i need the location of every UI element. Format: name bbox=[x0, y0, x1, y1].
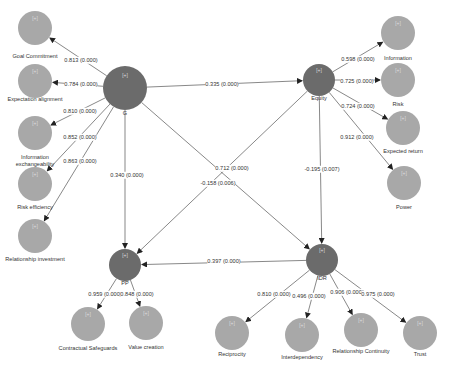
paths-arrow-g-idr bbox=[142, 102, 310, 248]
expand-toggle-icon[interactable]: [+] bbox=[401, 170, 407, 176]
loadings-coefficient-label: 0.810 (0.000) bbox=[63, 108, 96, 115]
construct-label-pp: PP bbox=[95, 280, 155, 287]
loadings-coefficient-label: 0.784 (0.000) bbox=[64, 81, 97, 88]
indicator-label-valuecr: Value creation bbox=[116, 344, 176, 351]
indicator-label-riskeff: Risk efficiency bbox=[5, 204, 65, 211]
expand-toggle-icon[interactable]: [+] bbox=[32, 15, 38, 21]
expand-toggle-icon[interactable]: [+] bbox=[32, 223, 38, 229]
paths-coefficient-label: -0.158 (0.006) bbox=[200, 180, 235, 187]
construct-label-g: G bbox=[95, 110, 155, 117]
indicator-label-information: Information bbox=[368, 55, 428, 62]
paths-coefficient-label: 0.397 (0.000) bbox=[207, 258, 240, 265]
expand-toggle-icon[interactable]: [+] bbox=[85, 311, 91, 317]
expand-toggle-icon[interactable]: [+] bbox=[417, 320, 423, 326]
expand-toggle-icon[interactable]: [+] bbox=[32, 120, 38, 126]
paths-coefficient-label: 0.712 (0.000) bbox=[215, 165, 248, 172]
loadings-coefficient-label: 0.906 (0.000) bbox=[330, 289, 363, 296]
expand-toggle-icon[interactable]: [+] bbox=[395, 20, 401, 26]
loadings-coefficient-label: 0.810 (0.000) bbox=[257, 291, 290, 298]
expand-toggle-icon[interactable]: [+] bbox=[319, 247, 325, 253]
loadings-coefficient-label: 0.912 (0.000) bbox=[340, 134, 373, 141]
expand-toggle-icon[interactable]: [+] bbox=[400, 115, 406, 121]
construct-label-idr: IDR bbox=[292, 275, 352, 282]
expand-toggle-icon[interactable]: [+] bbox=[32, 68, 38, 74]
path-model-canvas: 0.813 (0.000)0.784 (0.000)0.810 (0.000)0… bbox=[0, 0, 451, 376]
indicator-label-expret: Expected return bbox=[373, 148, 433, 155]
indicator-label-power: Power bbox=[374, 204, 434, 211]
expand-toggle-icon[interactable]: [+] bbox=[358, 317, 364, 323]
expand-toggle-icon[interactable]: [+] bbox=[122, 72, 128, 78]
paths-coefficient-label: 0.340 (0.000) bbox=[110, 172, 143, 179]
paths-coefficient-label: -0.195 (0.007) bbox=[304, 166, 339, 173]
expand-toggle-icon[interactable]: [+] bbox=[299, 322, 305, 328]
paths-arrow-equity-pp bbox=[137, 91, 307, 253]
expand-toggle-icon[interactable]: [+] bbox=[229, 320, 235, 326]
indicator-label-risk: Risk bbox=[368, 101, 428, 108]
expand-toggle-icon[interactable]: [+] bbox=[316, 67, 322, 73]
indicator-label-expect: Expectation alignment bbox=[5, 96, 65, 103]
indicator-label-trust: Trust bbox=[390, 351, 450, 358]
indicator-label-relinv: Relationship investment bbox=[5, 256, 65, 263]
loadings-coefficient-label: 0.725 (0.000) bbox=[340, 78, 373, 85]
loadings-coefficient-label: 0.848 (0.000) bbox=[120, 291, 153, 298]
indicator-label-interdep: Interdependency bbox=[272, 354, 332, 361]
expand-toggle-icon[interactable]: [+] bbox=[395, 67, 401, 73]
loadings-coefficient-label: 0.975 (0.000) bbox=[361, 291, 394, 298]
indicator-label-relcont: Relationship Continuity bbox=[331, 348, 391, 355]
indicator-label-infoex: Information exchangeability bbox=[5, 154, 65, 167]
expand-toggle-icon[interactable]: [+] bbox=[143, 310, 149, 316]
loadings-coefficient-label: 0.813 (0.000) bbox=[64, 57, 97, 64]
indicator-label-goal: Goal Commitment bbox=[5, 53, 65, 60]
expand-toggle-icon[interactable]: [+] bbox=[122, 252, 128, 258]
indicator-label-contract: Contractual Safeguards bbox=[58, 345, 118, 352]
loadings-coefficient-label: 0.863 (0.000) bbox=[63, 158, 96, 165]
loadings-coefficient-label: 0.852 (0.000) bbox=[63, 134, 96, 141]
expand-toggle-icon[interactable]: [+] bbox=[32, 171, 38, 177]
loadings-coefficient-label: 0.959 (0.000) bbox=[88, 291, 121, 298]
paths-coefficient-label: 0.335 (0.000) bbox=[205, 81, 238, 88]
construct-label-equity: Equity bbox=[289, 95, 349, 102]
loadings-coefficient-label: 0.496 (0.000) bbox=[292, 293, 325, 300]
indicator-label-recip: Reciprocity bbox=[202, 351, 262, 358]
